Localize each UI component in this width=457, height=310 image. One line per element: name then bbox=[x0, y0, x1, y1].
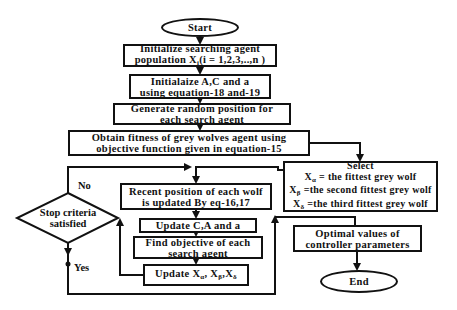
alpha-text: = the fittest grey wolf bbox=[316, 171, 416, 182]
no-label: No bbox=[78, 180, 91, 191]
update-x-prefix: Update X bbox=[155, 268, 200, 279]
update-x-sub-delta: δ bbox=[233, 273, 237, 281]
yes-label: Yes bbox=[74, 262, 89, 273]
beta-text: =the second fittest grey wolf bbox=[301, 184, 432, 195]
init-params-box: Initialaize A,C and a using equation-18 … bbox=[129, 74, 271, 99]
select-box: Select Xα = the fittest grey wolf Xβ =th… bbox=[283, 161, 438, 212]
select-beta: Xβ =the second fittest grey wolf bbox=[289, 185, 431, 199]
recent-position-box: Recent position of each wolf is updated … bbox=[120, 183, 272, 210]
alpha-symbol: X bbox=[305, 171, 313, 182]
obtain-fitness-box: Obtain fitness of grey wolves agent usin… bbox=[68, 130, 310, 156]
update-x-sep2: ,X bbox=[222, 268, 233, 279]
init-params-label: Initialaize A,C and a using equation-18 … bbox=[137, 76, 263, 98]
generate-random-box: Generate random position for each search… bbox=[113, 103, 291, 125]
start-terminal: Start bbox=[161, 18, 239, 37]
start-label: Start bbox=[188, 22, 212, 33]
update-cal-label: Update C,A and a bbox=[156, 220, 241, 231]
select-delta: Xδ =the third fittest grey wolf bbox=[293, 199, 428, 213]
find-objective-box: Find objective of each search agent bbox=[133, 236, 263, 259]
select-alpha: Xα = the fittest grey wolf bbox=[305, 172, 417, 186]
init-population-line1: Initialize searching agent bbox=[140, 43, 260, 54]
init-population-suffix: (i = 1,2,3,..,n ) bbox=[199, 54, 265, 65]
update-cal-box: Update C,A and a bbox=[139, 218, 257, 233]
optimal-label: Optimal values of controller parameters bbox=[299, 228, 416, 250]
end-terminal: End bbox=[320, 270, 398, 293]
end-label: End bbox=[349, 276, 369, 287]
update-x-box: Update Xα, Xβ,Xδ bbox=[143, 264, 249, 286]
recent-position-label: Recent position of each wolf is updated … bbox=[126, 186, 266, 208]
delta-text: =the third fittest grey wolf bbox=[305, 198, 428, 209]
find-objective-label: Find objective of each search agent bbox=[141, 237, 255, 259]
update-x-label: Update Xα, Xβ,Xδ bbox=[155, 268, 237, 283]
init-population-prefix: population X bbox=[135, 54, 197, 65]
init-population-line2: population Xi(i = 1,2,3,..,n ) bbox=[135, 54, 266, 69]
delta-symbol: X bbox=[293, 198, 301, 209]
optimal-box: Optimal values of controller parameters bbox=[293, 225, 422, 252]
decision-label: Stop criteria satisfied bbox=[30, 207, 106, 229]
generate-random-label: Generate random position for each search… bbox=[127, 103, 277, 125]
update-x-sep1: , X bbox=[205, 268, 219, 279]
beta-symbol: X bbox=[289, 184, 297, 195]
init-population-box: Initialize searching agent population Xi… bbox=[123, 44, 277, 67]
obtain-fitness-label: Obtain fitness of grey wolves agent usin… bbox=[80, 132, 298, 154]
